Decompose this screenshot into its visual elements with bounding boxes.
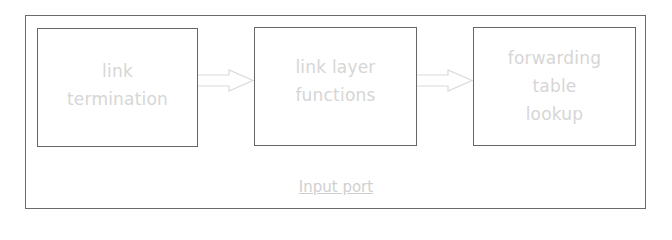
link-layer-functions-label: link layer functions — [295, 53, 375, 109]
link-termination-label: link termination — [67, 57, 168, 113]
link-layer-functions-block: link layer functions — [254, 27, 417, 146]
arrow-right-icon — [416, 68, 474, 94]
link-termination-block: link termination — [37, 28, 198, 147]
input-port-label: Input port — [0, 178, 672, 196]
arrow-right-icon — [197, 68, 255, 94]
forwarding-table-lookup-label: forwarding table lookup — [508, 44, 601, 128]
forwarding-table-lookup-block: forwarding table lookup — [473, 27, 636, 146]
